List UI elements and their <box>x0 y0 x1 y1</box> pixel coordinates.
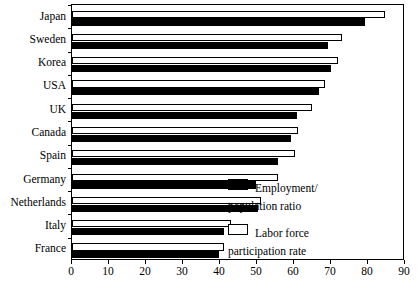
legend-swatch-filled <box>228 179 248 190</box>
bar-employment-population-ratio <box>72 112 297 119</box>
value-axis-tick <box>145 260 146 264</box>
category-axis-tick <box>68 191 72 192</box>
category-axis-tick <box>68 98 72 99</box>
value-axis-tick <box>108 260 109 264</box>
bar-employment-population-ratio <box>72 251 219 258</box>
category-label-usa: USA <box>43 79 66 91</box>
category-axis-labels: JapanSwedenKoreaUSAUKCanadaSpainGermanyN… <box>0 4 69 260</box>
category-label-netherlands: Netherlands <box>10 196 66 208</box>
value-axis-tick <box>182 260 183 264</box>
category-label-spain: Spain <box>40 149 66 161</box>
category-axis-tick <box>68 5 72 6</box>
value-axis-tick-label: 20 <box>139 265 151 278</box>
category-axis-tick <box>68 75 72 76</box>
category-axis-tick <box>68 168 72 169</box>
bar-labor-force-participation-rate <box>72 150 295 157</box>
category-axis-tick <box>68 238 72 239</box>
bar-employment-population-ratio <box>72 65 331 72</box>
bar-labor-force-participation-rate <box>72 220 231 227</box>
category-label-korea: Korea <box>38 56 66 68</box>
category-label-uk: UK <box>49 103 66 115</box>
value-axis-tick-label: 10 <box>102 265 114 278</box>
category-axis-tick <box>68 145 72 146</box>
bar-labor-force-participation-rate <box>72 11 385 18</box>
bar-employment-population-ratio <box>72 158 278 165</box>
category-axis-tick <box>68 214 72 215</box>
bar-employment-population-ratio <box>72 88 319 95</box>
legend-item: Labor force participation rate <box>228 223 403 259</box>
bar-labor-force-participation-rate <box>72 57 338 64</box>
bar-employment-population-ratio <box>72 18 365 25</box>
legend-swatch-hollow <box>228 224 248 235</box>
category-label-sweden: Sweden <box>30 33 66 45</box>
bar-employment-population-ratio <box>72 135 291 142</box>
category-label-canada: Canada <box>32 126 66 138</box>
legend-item: Employment/ population ratio <box>228 178 403 214</box>
bar-labor-force-participation-rate <box>72 104 312 111</box>
bar-labor-force-participation-rate <box>72 34 342 41</box>
bar-labor-force-participation-rate <box>72 127 298 134</box>
category-axis-tick <box>68 121 72 122</box>
value-axis-tick <box>219 260 220 264</box>
value-axis-tick <box>404 260 405 264</box>
category-label-france: France <box>35 242 66 254</box>
bar-labor-force-participation-rate <box>72 80 325 87</box>
value-axis-tick-label: 40 <box>213 265 225 278</box>
category-axis-tick <box>68 52 72 53</box>
category-label-japan: Japan <box>40 10 66 22</box>
value-axis-tick <box>71 260 72 264</box>
value-axis-tick-label: 0 <box>68 265 74 278</box>
category-label-italy: Italy <box>45 219 66 231</box>
bar-chart: JapanSwedenKoreaUSAUKCanadaSpainGermanyN… <box>0 0 420 291</box>
chart-legend: Employment/ population ratioLabor force … <box>228 178 403 268</box>
category-label-germany: Germany <box>23 173 66 185</box>
bar-labor-force-participation-rate <box>72 243 224 250</box>
bar-employment-population-ratio <box>72 228 224 235</box>
bar-employment-population-ratio <box>72 42 328 49</box>
category-axis-tick <box>68 28 72 29</box>
value-axis-tick-label: 30 <box>176 265 188 278</box>
